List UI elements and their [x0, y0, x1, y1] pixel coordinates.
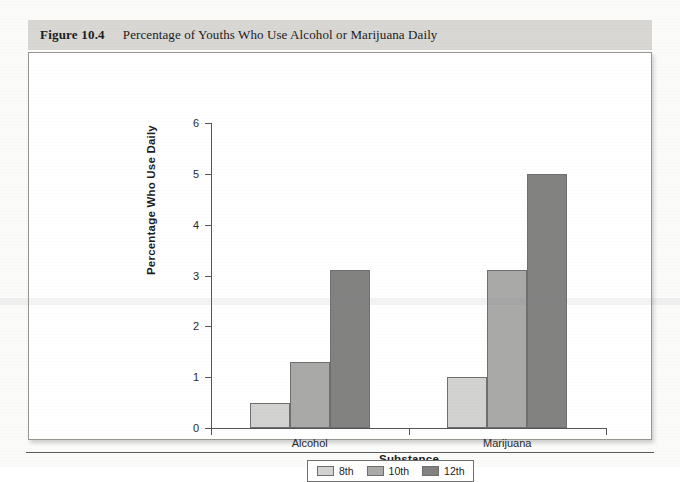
y-tick-mark	[205, 276, 211, 277]
y-tick-mark	[205, 326, 211, 327]
page-bottom-rule	[26, 452, 654, 453]
x-category-label: Marijuana	[483, 437, 531, 449]
bar-alcohol-12th	[330, 270, 370, 428]
y-tick-mark	[205, 377, 211, 378]
y-tick-label: 4	[159, 219, 199, 231]
legend-label: 12th	[444, 465, 464, 477]
bar-alcohol-8th	[250, 403, 290, 428]
bar-marijuana-12th	[527, 174, 567, 428]
x-tick-mark	[409, 429, 410, 435]
x-tick-mark	[606, 429, 607, 435]
y-tick-label: 2	[159, 320, 199, 332]
figure-title: Percentage of Youths Who Use Alcohol or …	[123, 27, 438, 43]
legend-label: 10th	[389, 465, 409, 477]
y-tick-label: 5	[159, 168, 199, 180]
y-axis-line	[211, 123, 212, 429]
chart-legend: 8th10th12th	[307, 460, 474, 482]
y-tick-label: 6	[159, 117, 199, 129]
y-tick-label: 3	[159, 270, 199, 282]
y-tick-mark	[205, 123, 211, 124]
figure-caption-band: Figure 10.4 Percentage of Youths Who Use…	[28, 20, 652, 50]
chart-panel: 0123456 AlcoholMarijuana Percentage Who …	[28, 52, 652, 440]
legend-swatch-icon	[367, 466, 384, 476]
y-tick-label: 0	[159, 422, 199, 434]
y-tick-mark	[205, 174, 211, 175]
legend-swatch-icon	[317, 466, 334, 476]
figure-number: Figure 10.4	[40, 27, 105, 43]
legend-item-12th: 12th	[422, 465, 464, 477]
x-tick-mark	[211, 429, 212, 435]
legend-label: 8th	[339, 465, 354, 477]
bar-alcohol-10th	[290, 362, 330, 428]
y-tick-label: 1	[159, 371, 199, 383]
y-axis-label: Percentage Who Use Daily	[145, 125, 157, 275]
legend-item-8th: 8th	[317, 465, 354, 477]
legend-swatch-icon	[422, 466, 439, 476]
bar-marijuana-10th	[487, 270, 527, 428]
x-category-label: Alcohol	[292, 437, 328, 449]
y-tick-mark	[205, 225, 211, 226]
bar-marijuana-8th	[447, 377, 487, 428]
legend-item-10th: 10th	[367, 465, 409, 477]
